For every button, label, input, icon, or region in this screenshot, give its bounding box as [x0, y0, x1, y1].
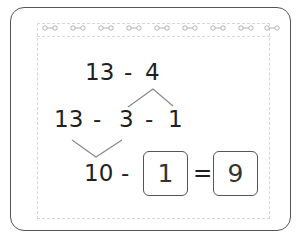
- row3-operator: -: [121, 162, 129, 185]
- row3-minuend: 10: [84, 162, 113, 185]
- answer-box-2[interactable]: 9: [213, 151, 258, 196]
- decomposition-brackets: [0, 0, 300, 242]
- equals-sign: =: [193, 162, 212, 185]
- combine-bracket: [72, 140, 122, 157]
- split-bracket: [128, 89, 173, 107]
- answer-box-1[interactable]: 1: [143, 151, 188, 196]
